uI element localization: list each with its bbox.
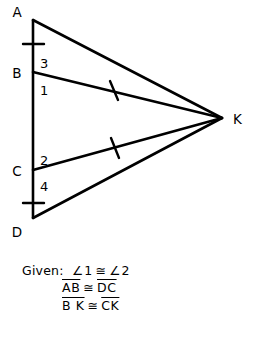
angle-symbol-left: ∠ [72,263,84,278]
angle-symbol-right: ∠ [109,263,121,278]
angle-label-2: 2 [40,153,48,168]
segment-name-DC: DC [97,280,117,295]
given-line-segments-ab-dc: AB≅DC [0,279,253,296]
vertex-label-D: D [12,224,22,240]
segment-CK [33,118,222,170]
geometry-diagram: A B C D K 3 1 2 4 [0,0,253,260]
given-line-angles: Given: ∠1≅∠2 [0,262,253,279]
segment-name-BK: B K [62,298,85,313]
given-angle-1: 1 [84,263,92,278]
angle-label-3: 3 [40,56,48,71]
congruent-symbol-3: ≅ [85,298,102,313]
angle-label-1: 1 [40,83,48,98]
segment-AK [33,20,222,118]
congruent-symbol-1: ≅ [93,263,110,278]
vertex-label-C: C [12,163,21,179]
vertex-label-K: K [233,111,243,127]
vertex-label-B: B [12,65,21,81]
given-line-segments-bk-ck: B K≅CK [0,297,253,314]
segment-DK [33,118,222,218]
segment-name-CK: CK [101,298,119,313]
segment-name-AB: AB [62,280,80,295]
congruent-symbol-2: ≅ [80,280,97,295]
given-heading: Given: [22,263,64,278]
given-angle-2: 2 [122,263,130,278]
given-statements: Given: ∠1≅∠2 AB≅DC B K≅CK [0,262,253,314]
segment-BK [33,72,222,118]
angle-label-4: 4 [40,179,48,194]
vertex-label-A: A [12,4,22,20]
geometry-figure: A B C D K 3 1 2 4 Given: ∠1≅∠2 AB≅DC B K… [0,0,253,339]
